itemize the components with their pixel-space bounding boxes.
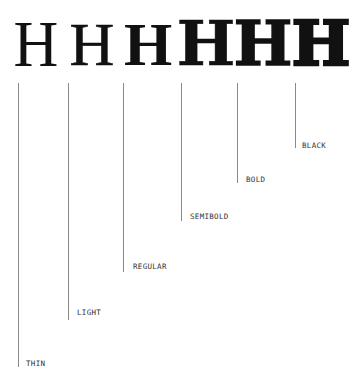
leader-line-semibold	[181, 83, 182, 221]
leader-line-thin	[18, 83, 19, 367]
glyph-semibold: H	[176, 6, 236, 82]
label-thin: THIN	[26, 359, 45, 368]
label-regular: REGULAR	[133, 262, 167, 271]
leader-line-regular	[123, 83, 124, 272]
glyph-light: H	[62, 6, 122, 82]
leader-line-light	[68, 83, 69, 320]
label-bold: BOLD	[246, 175, 265, 184]
label-black: BLACK	[302, 141, 326, 150]
glyph-bold: H	[233, 6, 293, 82]
leader-line-black	[295, 83, 296, 148]
glyph-thin: H	[6, 4, 66, 84]
glyph-black: H	[291, 6, 351, 82]
leader-line-bold	[237, 83, 238, 183]
glyph-regular: H	[118, 6, 178, 82]
label-semibold: SEMIBOLD	[190, 212, 229, 221]
label-light: LIGHT	[77, 308, 101, 317]
